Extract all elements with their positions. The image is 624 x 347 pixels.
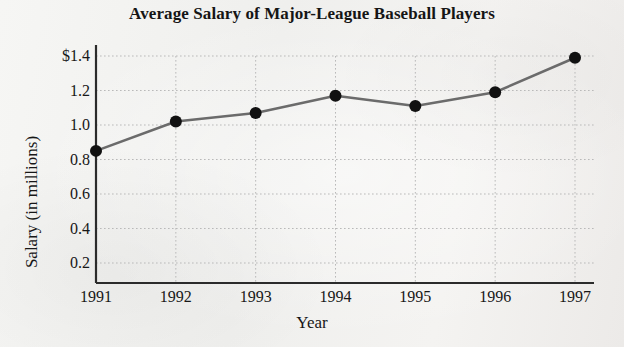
- data-point-marker: [170, 116, 182, 128]
- data-point-marker: [569, 52, 581, 64]
- plot-area: [0, 0, 624, 347]
- data-point-marker: [489, 86, 501, 98]
- grid-lines: [96, 56, 594, 283]
- data-point-marker: [90, 145, 102, 157]
- line-chart-figure: Average Salary of Major-League Baseball …: [0, 0, 624, 347]
- data-point-marker: [250, 107, 262, 119]
- data-point-marker: [409, 100, 421, 112]
- data-point-marker: [330, 90, 342, 102]
